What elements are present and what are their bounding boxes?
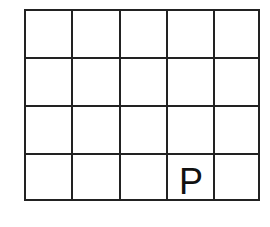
- cell-label-p: P: [179, 164, 203, 200]
- grid-board: P: [24, 9, 260, 201]
- grid-line-horizontal: [26, 105, 258, 107]
- grid-line-horizontal: [26, 153, 258, 155]
- grid-line-horizontal: [26, 57, 258, 59]
